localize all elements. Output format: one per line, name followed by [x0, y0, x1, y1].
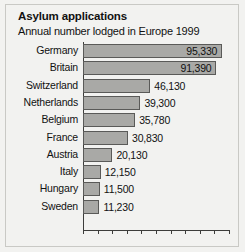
bar — [83, 96, 140, 110]
plot-area: Germany95,330Britain91,390Switzerland46,… — [0, 42, 245, 242]
category-label: Switzerland — [6, 79, 78, 91]
x-axis-tick — [200, 230, 201, 234]
value-label: 35,780 — [139, 114, 170, 126]
category-label: Austria — [6, 148, 78, 160]
bar-row: Germany95,330 — [0, 43, 245, 60]
value-label: 12,150 — [105, 166, 136, 178]
bar — [83, 148, 112, 162]
bar — [83, 165, 101, 179]
bar-row: Austria20,130 — [0, 147, 245, 164]
x-axis-tick — [112, 230, 113, 234]
bar-row: Netherlands39,300 — [0, 95, 245, 112]
x-axis-tick — [229, 230, 230, 234]
bar-row: Britain91,390 — [0, 60, 245, 77]
bar-row: Belgium35,780 — [0, 112, 245, 129]
x-axis-tick — [83, 230, 84, 234]
value-label: 20,130 — [116, 149, 147, 161]
category-label: Sweden — [6, 200, 78, 212]
value-label: 11,500 — [104, 183, 134, 195]
value-label: 39,300 — [144, 97, 175, 109]
x-axis-tick — [141, 230, 142, 234]
category-label: France — [6, 131, 78, 143]
x-axis-tick — [171, 230, 172, 234]
bar-row: Hungary11,500 — [0, 181, 245, 198]
bar — [83, 200, 99, 214]
category-label: Belgium — [6, 113, 78, 125]
bar — [83, 131, 128, 145]
chart-title: Asylum applications — [18, 10, 127, 22]
bar — [83, 182, 100, 196]
bar — [83, 113, 135, 127]
x-axis-tick — [185, 230, 186, 234]
x-axis-tick — [98, 230, 99, 234]
value-label: 95,330 — [83, 45, 217, 57]
value-label: 91,390 — [83, 62, 211, 74]
x-axis-tick — [214, 230, 215, 234]
chart-subtitle: Annual number lodged in Europe 1999 — [18, 25, 199, 37]
category-label: Germany — [6, 44, 78, 56]
category-label: Netherlands — [6, 96, 78, 108]
bar-row: France30,830 — [0, 130, 245, 147]
bar-row: Italy12,150 — [0, 164, 245, 181]
x-axis-tick — [127, 230, 128, 234]
bar-row: Sweden11,230 — [0, 199, 245, 216]
category-label: Italy — [6, 165, 78, 177]
bar-row: Switzerland46,130 — [0, 78, 245, 95]
bar — [83, 79, 150, 93]
x-axis-tick — [156, 230, 157, 234]
value-label: 11,230 — [103, 201, 133, 213]
value-label: 46,130 — [154, 80, 185, 92]
category-label: Britain — [6, 61, 78, 73]
category-label: Hungary — [6, 182, 78, 194]
chart-figure: Asylum applications Annual number lodged… — [0, 0, 245, 252]
value-label: 30,830 — [132, 132, 163, 144]
